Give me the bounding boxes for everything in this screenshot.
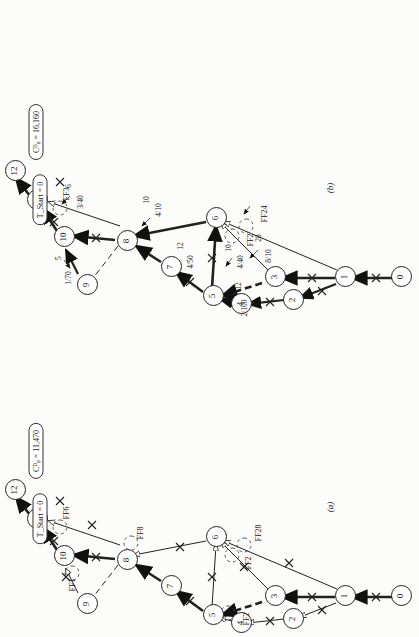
node-1[interactable]: 1 — [335, 586, 356, 607]
edge-label-5-6-flow: 12 — [176, 242, 185, 250]
edge-label-3-6-cost: 4/40 — [236, 255, 245, 268]
node-1[interactable]: 1 — [335, 267, 356, 288]
t-start-cap: T_Start = 0 — [33, 175, 48, 226]
node-0[interactable]: 0 — [391, 586, 412, 607]
edge-label-6-8-cost: 4/10 — [154, 203, 163, 216]
edge-label-5-6-cost: 4/50 — [186, 255, 195, 268]
edge-label-ff1: FF1 — [68, 579, 77, 592]
node-12[interactable]: 12 — [5, 480, 26, 501]
node-3[interactable]: 3 — [265, 586, 286, 607]
panel-tag-a: (a) — [325, 502, 335, 513]
node-2[interactable]: 2 — [283, 609, 304, 630]
edge-label-4-5-flow: 12 — [234, 282, 243, 290]
node-5[interactable]: 5 — [203, 605, 224, 626]
edge-label-9-10-flow: 5 — [54, 256, 63, 260]
edge-label-ff6: FF6 — [62, 507, 71, 520]
node-8[interactable]: 8 — [117, 550, 138, 571]
network-panel-a: 0 1 2 3 4 5 6 7 8 9 10 11 12 T_Start = 0… — [0, 319, 419, 637]
edge-label-ff2-b: FF2 — [246, 234, 255, 247]
edge-label-4-5-cost: 2/100 — [240, 299, 249, 316]
node-5[interactable]: 5 — [203, 286, 224, 307]
network-panel-b: 0 1 2 3 4 5 6 7 8 9 10 11 12 T_Start = 0… — [0, 0, 419, 318]
panel-b-edges — [0, 0, 419, 318]
node-7[interactable]: 7 — [161, 576, 182, 597]
figure-sheet: 0 1 2 3 4 5 6 7 8 9 10 11 12 T_Start = 0… — [0, 0, 419, 637]
node-9[interactable]: 9 — [77, 594, 98, 615]
rotated-figure-canvas: 0 1 2 3 4 5 6 7 8 9 10 11 12 T_Start = 0… — [0, 0, 419, 637]
edge-label-1-6-cost: 8/10 — [264, 249, 273, 262]
node-2[interactable]: 2 — [283, 290, 304, 311]
node-6[interactable]: 6 — [206, 527, 227, 548]
node-12[interactable]: 12 — [5, 161, 26, 182]
node-10[interactable]: 10 — [54, 227, 75, 248]
edge-label-ff28: FF28 — [254, 525, 263, 542]
edge-label-ff8: FF8 — [136, 527, 145, 540]
node-10[interactable]: 10 — [54, 546, 75, 567]
edge-label-9-10-cost: 1/70 — [64, 271, 73, 284]
node-3[interactable]: 3 — [265, 267, 286, 288]
edge-label-6-8-flow: 10 — [142, 196, 151, 204]
edge-label-ff2-a2: FF2 — [244, 557, 253, 570]
node-8[interactable]: 8 — [117, 231, 138, 252]
cost-cap: Cᴰ₉ = 16,160 — [29, 104, 44, 160]
edge-label-ff2-a1: FF2 — [242, 613, 251, 626]
node-0[interactable]: 0 — [391, 267, 412, 288]
node-6[interactable]: 6 — [206, 208, 227, 229]
node-9[interactable]: 9 — [77, 275, 98, 296]
t-start-cap: T_Start = 0 — [33, 494, 48, 545]
panel-a-edges — [0, 319, 419, 637]
panel-tag-b: (b) — [325, 183, 335, 194]
edge-label-1-6-flow: 28 — [254, 234, 263, 242]
edge-label-3-6-flow: 10 — [224, 244, 233, 252]
cost-cap: Cᴰ₉ = 11,470 — [29, 423, 44, 479]
edge-label-8-11-cost: 3/40 — [76, 195, 85, 208]
edge-label-ff24: FF24 — [260, 206, 269, 223]
edge-label-ff3: FF3 — [62, 188, 71, 201]
node-7[interactable]: 7 — [161, 257, 182, 278]
